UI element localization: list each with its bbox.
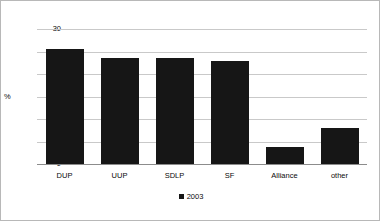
x-axis-label-sf: SF	[202, 168, 257, 184]
bar-sdlp[interactable]	[156, 58, 194, 164]
x-axis-label-alliance: Alliance	[257, 168, 312, 184]
bars-group	[37, 29, 367, 164]
bar-slot-sdlp	[147, 29, 202, 164]
bar-dup[interactable]	[46, 49, 84, 164]
legend-label-2003: 2003	[187, 193, 204, 201]
chart-legend: 2003	[1, 193, 380, 201]
bar-uup[interactable]	[101, 58, 139, 164]
bar-slot-uup	[92, 29, 147, 164]
bar-slot-sf	[202, 29, 257, 164]
bar-other[interactable]	[321, 128, 359, 164]
y-axis-title: %	[4, 93, 18, 101]
x-axis-label-uup: UUP	[92, 168, 147, 184]
bar-slot-dup	[37, 29, 92, 164]
gridline-0	[37, 164, 367, 165]
x-axis-label-sdlp: SDLP	[147, 168, 202, 184]
bar-sf[interactable]	[211, 61, 249, 164]
bar-alliance[interactable]	[266, 147, 304, 164]
bar-chart: % 051015202530 DUPUUPSDLPSFAllianceother…	[0, 0, 380, 221]
plot-area	[37, 29, 367, 164]
bar-slot-other	[312, 29, 367, 164]
x-axis-label-dup: DUP	[37, 168, 92, 184]
bar-slot-alliance	[257, 29, 312, 164]
x-axis-label-other: other	[312, 168, 367, 184]
legend-swatch-2003	[179, 194, 184, 199]
x-axis-labels: DUPUUPSDLPSFAllianceother	[37, 168, 367, 184]
